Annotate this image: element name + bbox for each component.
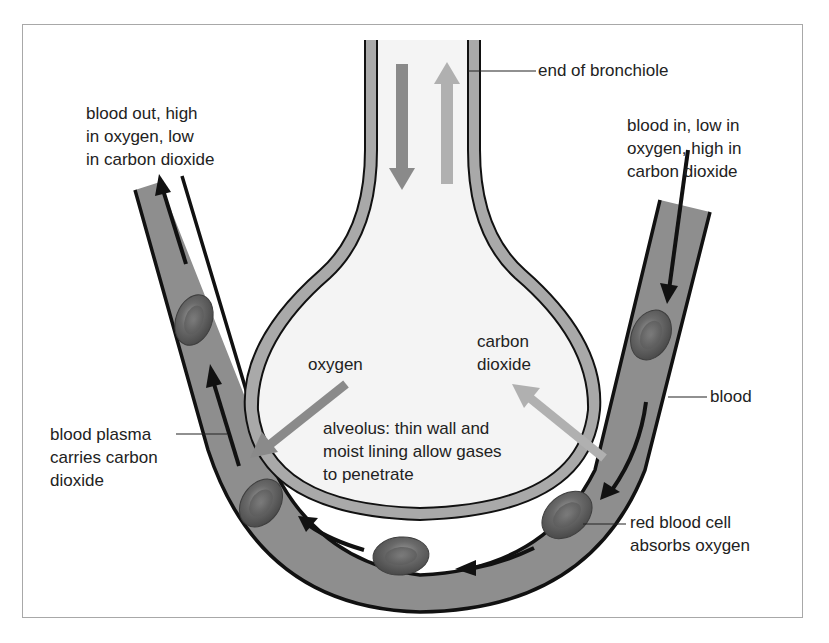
label-blood-in: blood in, low in oxygen, high in carbon … [627, 115, 741, 182]
label-oxygen: oxygen [308, 354, 363, 375]
label-red-blood-cell: red blood cell absorbs oxygen [630, 512, 750, 556]
label-carbon-dioxide: carbon dioxide [477, 331, 531, 375]
label-blood-plasma: blood plasma carries carbon dioxide [50, 424, 158, 491]
label-alveolus: alveolus: thin wall and moist lining all… [323, 418, 502, 485]
label-blood-out: blood out, high in oxygen, low in carbon… [86, 103, 215, 170]
label-end-of-bronchiole: end of bronchiole [538, 60, 668, 81]
label-blood: blood [710, 386, 752, 407]
